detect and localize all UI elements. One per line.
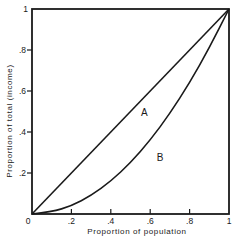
y-tick-label: .2 xyxy=(19,168,26,178)
region-label-a: A xyxy=(141,107,148,118)
x-tick-label: .4 xyxy=(107,216,114,226)
x-axis-label: Proportion of population xyxy=(87,227,186,236)
x-tick-label: .8 xyxy=(186,216,193,226)
y-tick-label: .6 xyxy=(19,86,26,96)
y-tick-label: .8 xyxy=(19,45,26,55)
y-ticks: .2.4.6.81 xyxy=(19,4,32,178)
x-tick-label: .6 xyxy=(147,216,154,226)
y-tick-label: 1 xyxy=(23,4,28,14)
x-ticks: 0.2.4.6.81 xyxy=(26,209,232,226)
x-tick-label: 1 xyxy=(227,216,232,226)
region-label-b: B xyxy=(157,152,164,163)
series-layer xyxy=(32,9,229,214)
y-tick-label: .4 xyxy=(19,127,26,137)
annotations: AB xyxy=(141,107,164,163)
equality-line xyxy=(32,9,229,214)
y-axis-label: Proportion of total (income) xyxy=(5,64,14,177)
lorenz-curve-chart: 0.2.4.6.81 .2.4.6.81 AB Proportion of po… xyxy=(0,0,238,244)
x-tick-label: 0 xyxy=(26,216,31,226)
x-tick-label: .2 xyxy=(68,216,75,226)
